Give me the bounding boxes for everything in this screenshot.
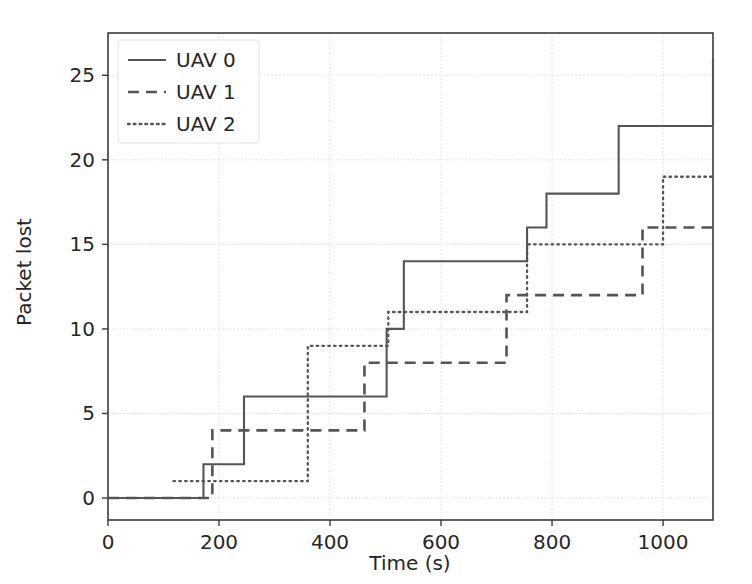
y-axis-label: Packet lost	[12, 218, 36, 326]
packet-lost-step-chart: 02004006008001000 0510152025 UAV 0UAV 1U…	[0, 0, 752, 584]
y-tick-label-4: 20	[70, 148, 95, 172]
x-tick-label-0: 0	[102, 530, 115, 554]
x-tick-label-1: 200	[200, 530, 238, 554]
x-tick-label-2: 400	[311, 530, 349, 554]
x-tick-label-5: 1000	[638, 530, 689, 554]
legend-label-uav-2: UAV 2	[176, 112, 236, 136]
chart-figure: 02004006008001000 0510152025 UAV 0UAV 1U…	[0, 0, 752, 584]
legend-label-uav-1: UAV 1	[176, 80, 236, 104]
legend-label-uav-0: UAV 0	[176, 48, 236, 72]
y-tick-label-5: 25	[70, 63, 95, 87]
x-axis-label: Time (s)	[368, 551, 450, 575]
series-line-uav-1	[108, 227, 713, 498]
y-tick-labels: 0510152025	[70, 63, 95, 510]
y-tick-label-2: 10	[70, 317, 95, 341]
x-tick-label-4: 800	[533, 530, 571, 554]
y-tick-label-0: 0	[82, 486, 95, 510]
chart-legend: UAV 0UAV 1UAV 2	[118, 40, 259, 143]
y-tickmarks	[102, 75, 108, 498]
y-tick-label-1: 5	[82, 401, 95, 425]
y-tick-label-3: 15	[70, 232, 95, 256]
x-tickmarks	[108, 520, 663, 526]
